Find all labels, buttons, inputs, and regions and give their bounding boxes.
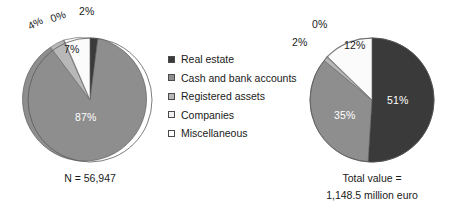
- legend-item-miscellaneous: Miscellaneous: [168, 124, 296, 143]
- chart-legend: Real estate Cash and bank accounts Regis…: [168, 50, 296, 143]
- legend-label-cash-and-bank-accounts: Cash and bank accounts: [181, 73, 297, 84]
- legend-label-miscellaneous: Miscellaneous: [181, 128, 248, 139]
- slice-label-right-real-estate: 51%: [387, 95, 408, 106]
- legend-item-real-estate: Real estate: [168, 50, 296, 69]
- slice-label-right-registered-assets: 2%: [292, 37, 307, 48]
- slice-label-left-companies: 7%: [64, 44, 79, 55]
- pie-left-caption: N = 56,947: [0, 171, 180, 186]
- pie-right-caption-line1: Total value =: [286, 171, 458, 186]
- slice-label-left-cash: 87%: [75, 112, 96, 123]
- legend-swatch-registered-assets-icon: [168, 93, 175, 100]
- pie-chart-figure: 2% 87% 4% 0% 7% N = 56,947 Real estate C…: [0, 0, 458, 212]
- pie-right-caption-line2: 1,148.5 million euro: [286, 188, 458, 203]
- slice-label-right-miscellaneous: 0%: [312, 19, 327, 30]
- legend-swatch-cash-and-bank-accounts-icon: [168, 74, 175, 81]
- slice-label-right-cash: 35%: [334, 110, 355, 121]
- pie-chart-value: 51% 35% 2% 0% 12% Total value = 1,148.5 …: [286, 0, 458, 212]
- slice-label-right-companies: 12%: [344, 40, 365, 51]
- legend-label-real-estate: Real estate: [181, 54, 234, 65]
- slice-label-left-real-estate: 2%: [79, 6, 94, 17]
- legend-item-cash-and-bank-accounts: Cash and bank accounts: [168, 69, 296, 88]
- legend-swatch-miscellaneous-icon: [168, 130, 175, 137]
- pie-chart-count: 2% 87% 4% 0% 7% N = 56,947: [0, 0, 180, 212]
- legend-label-registered-assets: Registered assets: [181, 91, 265, 102]
- legend-item-registered-assets: Registered assets: [168, 87, 296, 106]
- legend-item-companies: Companies: [168, 106, 296, 125]
- legend-swatch-real-estate-icon: [168, 56, 175, 63]
- legend-label-companies: Companies: [181, 110, 234, 121]
- legend-swatch-companies-icon: [168, 111, 175, 118]
